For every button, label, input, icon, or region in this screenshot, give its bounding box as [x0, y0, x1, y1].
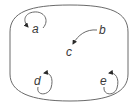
node-label-b: b [99, 23, 106, 37]
node-d: d [34, 73, 52, 94]
node-e: e [100, 73, 118, 94]
node-c: c [66, 45, 72, 59]
node-a: a [25, 12, 46, 36]
edge-b-to-c-arrow [73, 30, 97, 44]
node-label-e: e [100, 74, 107, 88]
state-diagram: a b c d e [0, 0, 140, 108]
node-label-d: d [34, 74, 41, 88]
node-b: b [99, 23, 106, 37]
node-label-a: a [32, 22, 39, 36]
node-label-c: c [66, 45, 72, 59]
